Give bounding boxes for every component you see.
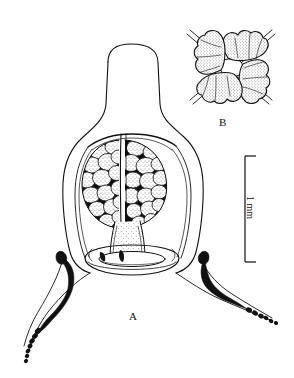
gonad-lobe-top — [223, 31, 268, 61]
tentacle-right-beads — [245, 306, 279, 325]
gonad-lobe-right — [239, 60, 270, 104]
illustration-canvas — [0, 0, 294, 378]
figure-plate: A B 1 mm — [0, 0, 294, 378]
tentacle-left-beads — [23, 327, 42, 364]
gonad-lobe-bottom — [197, 72, 242, 103]
panel-b-group — [187, 30, 275, 104]
gonad-left — [78, 131, 127, 233]
tentacle-right-body — [201, 259, 247, 309]
panel-label-a: A — [129, 310, 137, 322]
subumbrella-wall-right-inner — [172, 149, 187, 257]
velum-opening — [99, 252, 165, 267]
scalebar-label: 1 mm — [245, 196, 256, 219]
tentacle-left-body — [37, 260, 74, 334]
subumbrella-wall-right — [176, 146, 191, 258]
panel-label-b: B — [219, 116, 227, 128]
tentacle-left-upper-edge — [24, 262, 62, 346]
